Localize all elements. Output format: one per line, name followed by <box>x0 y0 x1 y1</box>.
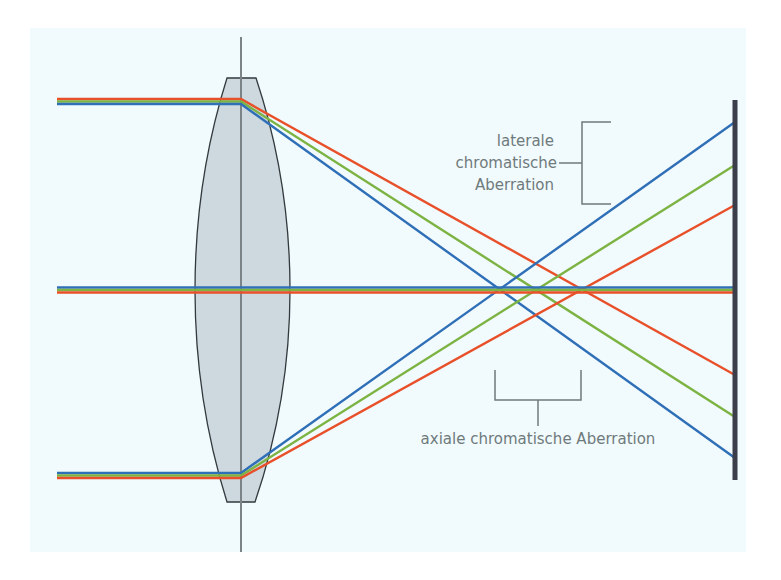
lateral-label-line3: Aberration <box>475 176 554 194</box>
chromatic-aberration-diagram: laterale chromatische Aberration axiale … <box>0 0 781 580</box>
lateral-label-line1: laterale <box>497 132 554 150</box>
lateral-label-line2: chromatische <box>456 154 557 172</box>
axial-label: axiale chromatische Aberration <box>421 430 656 448</box>
optical-axis-ray-bundle <box>57 288 735 293</box>
